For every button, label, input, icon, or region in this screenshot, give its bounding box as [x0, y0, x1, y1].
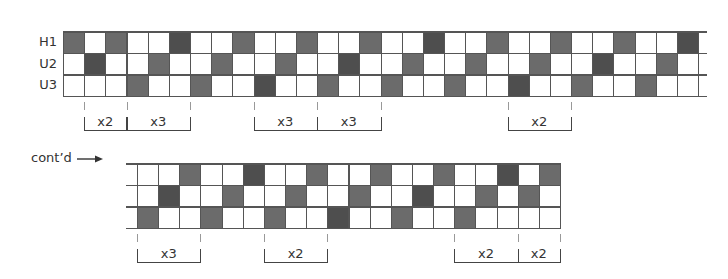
- bracket-tick: [381, 102, 382, 110]
- bottom-grid-line: [126, 163, 560, 165]
- bottom-cell-r1-c14: [412, 163, 434, 186]
- bottom-grid-line: [126, 185, 560, 187]
- top-cell-r2-c22: [508, 53, 530, 76]
- bottom-cell-r3-c11: [349, 206, 371, 229]
- bottom-cell-r2-c20: [539, 185, 561, 208]
- top-grid-line: [63, 74, 707, 76]
- bottom-cell-r2-c14-shaded: [412, 185, 434, 208]
- bottom-repeat-label-1: x3: [137, 246, 200, 261]
- top-cell-r3-c29: [656, 74, 678, 97]
- top-cell-r3-c8: [211, 74, 233, 97]
- top-cell-r3-c5: [148, 74, 170, 97]
- top-cell-r3-c10-shaded: [254, 74, 276, 97]
- bracket-tick: [317, 102, 318, 110]
- bottom-cell-r2-c5-shaded: [222, 185, 244, 208]
- top-cell-r2-c15: [359, 53, 381, 76]
- row-label-u3: U3: [27, 74, 57, 95]
- top-cell-r3-c24: [550, 74, 572, 97]
- top-cell-r2-c26-shaded: [592, 53, 614, 76]
- top-cell-r1-c10: [254, 31, 276, 54]
- bracket-tick: [254, 102, 255, 110]
- bottom-cell-r3-c3: [179, 206, 201, 229]
- bottom-repeat-label-3: x2: [454, 246, 517, 261]
- top-cell-r1-c9-shaded: [232, 31, 254, 54]
- top-cell-r1-c21-shaded: [486, 31, 508, 54]
- top-cell-r3-c12: [296, 74, 318, 97]
- bottom-cell-r3-c15: [433, 206, 455, 229]
- continuation-marker: cont’d: [31, 150, 103, 165]
- bracket-tick: [84, 102, 85, 110]
- top-cell-r1-c6-shaded: [169, 31, 191, 54]
- bottom-cell-r3-c6: [243, 206, 265, 229]
- top-cell-r3-c26: [592, 74, 614, 97]
- bottom-cell-r1-c16: [454, 163, 476, 186]
- top-cell-r3-c30: [677, 74, 699, 97]
- top-cell-r3-c18: [423, 74, 445, 97]
- top-cell-r2-c9: [232, 53, 254, 76]
- bottom-cell-r3-c19: [518, 206, 540, 229]
- top-cell-r1-c5: [148, 31, 170, 54]
- bracket-tick: [560, 234, 561, 242]
- bottom-cell-r2-c15: [433, 185, 455, 208]
- top-cell-r1-c28: [635, 31, 657, 54]
- bottom-cell-r2-c18: [497, 185, 519, 208]
- bottom-cell-r1-c4: [200, 163, 222, 186]
- bottom-cell-r3-c9: [306, 206, 328, 229]
- top-cell-r3-c14: [338, 74, 360, 97]
- top-cell-r3-c16-shaded: [381, 74, 403, 97]
- top-cell-r1-c2: [84, 31, 106, 54]
- bottom-cell-r2-c1: [137, 185, 159, 208]
- bracket-tick: [508, 102, 509, 110]
- bottom-grid-line: [126, 206, 560, 208]
- top-cell-r2-c12: [296, 53, 318, 76]
- bottom-cell-r3-c16-shaded: [454, 206, 476, 229]
- top-cell-r2-c5-shaded: [148, 53, 170, 76]
- top-cell-r1-c1-shaded: [63, 31, 85, 54]
- bottom-cell-r1-c8: [285, 163, 307, 186]
- right-arrow-icon: [77, 155, 103, 163]
- bottom-cell-r1-c5: [222, 163, 244, 186]
- top-cell-r1-c30-shaded: [677, 31, 699, 54]
- top-cell-r2-c3: [105, 53, 127, 76]
- bottom-cell-r1-c2: [158, 163, 180, 186]
- bottom-cell-r3-c13-shaded: [391, 206, 413, 229]
- bottom-cell-r1-c12-shaded: [370, 163, 392, 186]
- top-cell-r2-c14-shaded: [338, 53, 360, 76]
- bottom-cell-r3-c18: [497, 206, 519, 229]
- top-cell-r3-c20: [465, 74, 487, 97]
- bottom-cell-r3-c4-shaded: [200, 206, 222, 229]
- top-cell-r2-c6: [169, 53, 191, 76]
- top-cell-r1-c24-shaded: [550, 31, 572, 54]
- top-cell-r1-c23: [529, 31, 551, 54]
- bottom-cell-r1-c9-shaded: [306, 163, 328, 186]
- top-cell-r2-c16: [381, 53, 403, 76]
- top-cell-r3-c21: [486, 74, 508, 97]
- bottom-cell-r3-c8: [285, 206, 307, 229]
- top-repeat-label-3: x3: [254, 114, 318, 129]
- bracket-tick: [264, 234, 265, 242]
- bottom-cell-r2-c16: [454, 185, 476, 208]
- bottom-repeat-label-2: x2: [264, 246, 327, 261]
- top-cell-r1-c7: [190, 31, 212, 54]
- repeat-pattern-diagram: H1U2U3 x2x3x3x3x2 cont’d x3x2x2x2: [0, 0, 728, 279]
- bracket-tick: [137, 234, 138, 242]
- bottom-cell-r1-c3-shaded: [179, 163, 201, 186]
- bottom-cell-r2-c2-shaded: [158, 185, 180, 208]
- bracket-tick: [200, 234, 201, 242]
- top-repeat-label-2: x3: [127, 114, 191, 129]
- bracket-tick: [454, 234, 455, 242]
- bottom-cell-r1-c19: [518, 163, 540, 186]
- top-cell-r1-c4: [127, 31, 149, 54]
- top-cell-r3-c23: [529, 74, 551, 97]
- bottom-cell-r3-c20: [539, 206, 561, 229]
- bottom-cell-r2-c12: [370, 185, 392, 208]
- top-cell-r2-c13: [317, 53, 339, 76]
- bottom-cell-r2-c17-shaded: [475, 185, 497, 208]
- bottom-cell-r2-c11-shaded: [349, 185, 371, 208]
- top-cell-r3-c25-shaded: [571, 74, 593, 97]
- top-cell-r3-c7-shaded: [190, 74, 212, 97]
- top-cell-r3-c2: [84, 74, 106, 97]
- top-cell-r2-c27: [613, 53, 635, 76]
- bottom-repeat-label-4: x2: [518, 246, 560, 261]
- top-cell-r1-c14: [338, 31, 360, 54]
